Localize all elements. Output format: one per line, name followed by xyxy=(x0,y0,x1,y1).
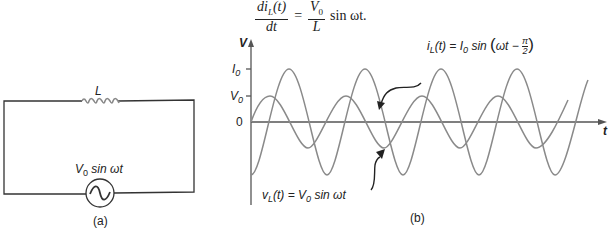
voltage-arrowhead-icon xyxy=(376,149,385,159)
inductor-label: L xyxy=(95,84,102,98)
source-tail: sin ωt xyxy=(88,162,123,176)
tick-label-v0: V0 xyxy=(230,89,243,105)
current-arrowhead-icon xyxy=(377,101,385,110)
voltage-equation-label: vL(t) = V0 sin ωt xyxy=(262,188,346,204)
source-label: V0 sin ωt xyxy=(75,162,123,178)
tick-label-zero: 0 xyxy=(236,115,243,129)
y-axis-label: V xyxy=(239,36,247,50)
caption-b: (b) xyxy=(410,211,425,225)
current-equation-label: iL(t) = I0 sin (ωt − π2) xyxy=(427,35,534,56)
tick-v0-sub: 0 xyxy=(238,95,243,105)
tick-label-i0: I0 xyxy=(232,62,240,78)
tick-i0-sub: 0 xyxy=(235,68,240,78)
circuit-wire-left xyxy=(4,101,86,194)
x-axis-label: t xyxy=(603,124,607,138)
graph-axes xyxy=(246,39,607,205)
circuit-diagram xyxy=(4,99,194,208)
caption-a: (a) xyxy=(93,214,108,228)
tick-v0-text: V xyxy=(230,89,238,103)
sine-wave-icon xyxy=(90,186,110,199)
voltage-arrow xyxy=(371,157,380,190)
annotation-arrows xyxy=(371,83,421,190)
circuit-wire-right xyxy=(114,100,194,193)
y-axis-arrow-icon xyxy=(248,39,254,47)
source-v: V xyxy=(75,162,83,176)
inductor-coil-icon xyxy=(82,99,119,104)
